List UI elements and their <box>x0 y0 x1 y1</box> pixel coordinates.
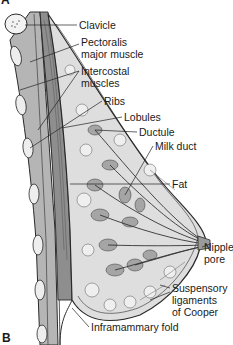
panel-label-top: A <box>1 0 10 7</box>
label-cooper-line2: ligaments <box>172 295 217 306</box>
label-fat: Fat <box>172 179 187 190</box>
label-intercostal-line1: Intercostal <box>81 66 129 77</box>
panel-label: B <box>2 331 11 345</box>
label-nipple-line1: Nipple <box>204 242 233 253</box>
label-nipple-line2: pore <box>204 254 225 265</box>
label-pectoralis-line1: Pectoralis <box>81 37 127 48</box>
label-milk-duct: Milk duct <box>155 141 196 152</box>
label-clavicle: Clavicle <box>79 20 116 31</box>
label-cooper-line3: of Cooper <box>172 307 218 318</box>
label-lobules: Lobules <box>124 112 161 123</box>
label-cooper-line1: Suspensory <box>172 283 227 294</box>
inframammary-fold <box>60 300 72 345</box>
clavicle <box>5 14 27 34</box>
label-ribs: Ribs <box>104 96 125 107</box>
label-intercostal-line2: muscles <box>81 78 120 89</box>
label-inframammary-fold: Inframammary fold <box>91 322 179 333</box>
label-pectoralis-line2: major muscle <box>81 49 143 60</box>
label-ductule: Ductule <box>139 127 175 138</box>
